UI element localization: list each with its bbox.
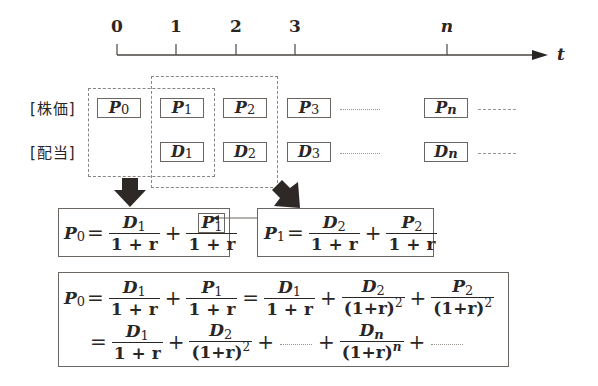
row-label-dividend: [配当] <box>30 141 76 162</box>
tick-1: 1 <box>170 16 182 36</box>
dividend-continuation <box>478 153 516 154</box>
axis-label-t: t <box>557 44 565 64</box>
tick-n: n <box>441 16 453 36</box>
dividend-cell-2: D2 <box>223 142 267 162</box>
substitution-arrow-icon <box>212 212 262 224</box>
price-cell-0: P0 <box>97 98 141 118</box>
equation-expanded-line1: P0 = D11 + r + P11 + r = D11 + r + D2(1+… <box>64 276 497 320</box>
equation-expanded-line2: = D11 + r + D2(1+r)2 + + Dn(1+r)n + <box>88 320 467 364</box>
series-ellipsis <box>280 344 312 345</box>
price-cell-n: Pn <box>424 98 468 118</box>
price-cell-2: P2 <box>223 98 267 118</box>
axis-arrowhead-icon <box>532 50 548 60</box>
tick-0: 0 <box>111 16 123 36</box>
price-ellipsis <box>340 109 380 110</box>
series-trailing-ellipsis <box>431 344 463 345</box>
down-arrow-icon <box>112 178 148 208</box>
diagonal-arrow-icon <box>270 178 306 210</box>
dividend-cell-1: D1 <box>160 142 204 162</box>
dividend-cell-3: D3 <box>287 142 331 162</box>
equation-p1: P1 = D21 + r + P21 + r <box>264 211 440 255</box>
timeline-axis <box>0 0 598 80</box>
row-label-price: [株価] <box>30 97 76 118</box>
price-cell-1: P1 <box>160 98 204 118</box>
price-continuation <box>478 109 516 110</box>
tick-3: 3 <box>289 16 301 36</box>
dividend-cell-n: Dn <box>424 142 468 162</box>
group-box-p1-d2 <box>151 76 278 188</box>
tick-2: 2 <box>230 16 242 36</box>
dividend-ellipsis <box>340 153 380 154</box>
price-cell-3: P3 <box>287 98 331 118</box>
